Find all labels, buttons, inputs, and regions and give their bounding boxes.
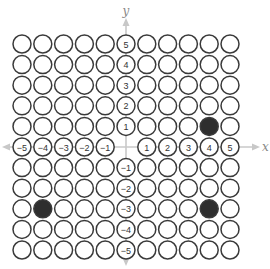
empty-dot	[13, 97, 31, 115]
x-tick-label: 1	[144, 143, 149, 153]
empty-dot	[55, 179, 73, 197]
empty-dot	[221, 200, 239, 218]
empty-dot	[55, 117, 73, 135]
empty-dot	[55, 56, 73, 74]
empty-dot	[55, 159, 73, 177]
empty-dot	[75, 97, 93, 115]
empty-dot	[179, 159, 197, 177]
empty-dot	[34, 159, 52, 177]
empty-dot	[138, 117, 156, 135]
x-axis-left-arrow-icon	[2, 144, 10, 151]
empty-dot	[96, 117, 114, 135]
empty-dot	[96, 56, 114, 74]
empty-dot	[159, 35, 177, 53]
empty-dot	[200, 56, 218, 74]
empty-dot	[159, 97, 177, 115]
empty-dot	[13, 117, 31, 135]
empty-dot	[159, 241, 177, 259]
empty-dot	[179, 117, 197, 135]
empty-dot	[96, 220, 114, 238]
empty-dot	[138, 200, 156, 218]
empty-dot	[13, 179, 31, 197]
empty-dot	[138, 179, 156, 197]
empty-dot	[13, 35, 31, 53]
empty-dot	[200, 179, 218, 197]
empty-dot	[179, 241, 197, 259]
empty-dot	[55, 241, 73, 259]
empty-dot	[221, 220, 239, 238]
empty-dot	[138, 97, 156, 115]
empty-dot	[159, 117, 177, 135]
empty-dot	[55, 35, 73, 53]
empty-dot	[138, 76, 156, 94]
empty-dot	[55, 200, 73, 218]
y-tick-label: −3	[121, 204, 131, 214]
x-axis-right-arrow-icon	[252, 144, 260, 151]
empty-dot	[75, 76, 93, 94]
empty-dot	[200, 159, 218, 177]
empty-dot	[13, 241, 31, 259]
empty-dot	[75, 117, 93, 135]
empty-dot	[34, 35, 52, 53]
empty-dot	[138, 35, 156, 53]
empty-dot	[138, 241, 156, 259]
empty-dot	[34, 56, 52, 74]
y-tick-label: −5	[121, 246, 131, 256]
empty-dot	[75, 35, 93, 53]
empty-dot	[138, 56, 156, 74]
x-tick-label: 2	[165, 143, 170, 153]
empty-dot	[34, 97, 52, 115]
x-tick-label: −4	[38, 143, 48, 153]
empty-dot	[221, 179, 239, 197]
empty-dot	[75, 200, 93, 218]
empty-dot	[179, 35, 197, 53]
empty-dot	[138, 220, 156, 238]
filled-dot	[200, 200, 218, 218]
empty-dot	[55, 76, 73, 94]
empty-dot	[96, 35, 114, 53]
empty-dot	[75, 56, 93, 74]
coordinate-grid-diagram: y x 54321−5−4−3−2−112345−1−2−3−4−5	[0, 0, 270, 269]
empty-dot	[179, 200, 197, 218]
empty-dot	[221, 97, 239, 115]
x-tick-label: −2	[79, 143, 89, 153]
empty-dot	[55, 97, 73, 115]
y-tick-label: 3	[123, 81, 128, 91]
empty-dot	[159, 76, 177, 94]
y-tick-label: 1	[123, 122, 128, 132]
x-axis-label: x	[262, 140, 269, 154]
empty-dot	[179, 56, 197, 74]
empty-dot	[96, 97, 114, 115]
empty-dot	[96, 200, 114, 218]
empty-dot	[34, 117, 52, 135]
empty-dot	[96, 76, 114, 94]
y-tick-label: 2	[123, 101, 128, 111]
y-tick-label: −2	[121, 184, 131, 194]
empty-dot	[138, 159, 156, 177]
empty-dot	[96, 159, 114, 177]
empty-dot	[159, 179, 177, 197]
empty-dot	[179, 179, 197, 197]
y-tick-label: −4	[121, 225, 131, 235]
y-axis-up-arrow-icon	[123, 18, 130, 26]
empty-dot	[96, 241, 114, 259]
y-tick-label: 4	[123, 60, 128, 70]
empty-dot	[200, 76, 218, 94]
empty-dot	[200, 241, 218, 259]
empty-dot	[34, 179, 52, 197]
empty-dot	[13, 56, 31, 74]
empty-dot	[13, 220, 31, 238]
x-tick-label: 3	[186, 143, 191, 153]
x-tick-label: −3	[58, 143, 68, 153]
filled-dot	[200, 117, 218, 135]
empty-dot	[221, 159, 239, 177]
empty-dot	[179, 220, 197, 238]
empty-dot	[34, 220, 52, 238]
empty-dot	[13, 200, 31, 218]
empty-dot	[221, 117, 239, 135]
empty-dot	[200, 35, 218, 53]
y-axis-label: y	[122, 4, 130, 18]
empty-dot	[200, 220, 218, 238]
empty-dot	[159, 200, 177, 218]
empty-dot	[75, 159, 93, 177]
